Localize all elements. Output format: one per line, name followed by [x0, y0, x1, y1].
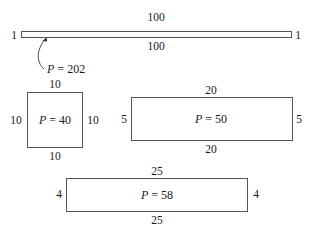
rect-20x5-left-label: 5 — [121, 113, 127, 125]
strip-bottom-label: 100 — [147, 40, 165, 52]
perimeter-value: 202 — [67, 62, 85, 76]
strip-left-label: 1 — [11, 29, 17, 41]
rect-20x5-top-label: 20 — [205, 84, 217, 96]
perimeter-equals: = — [46, 113, 59, 127]
rect-25x4-group: 25 25 4 4 P = 58 — [56, 165, 259, 226]
arrowhead-icon — [43, 38, 48, 42]
perimeter-value: 58 — [161, 188, 173, 202]
strip-perimeter-label: P = 202 — [46, 62, 85, 76]
square-bottom-label: 10 — [49, 150, 61, 162]
perimeter-diagram: 100 100 1 1 P = 202 10 10 10 10 P = 40 2… — [0, 0, 321, 237]
rect-20x5-group: 20 20 5 5 P = 50 — [121, 84, 302, 155]
rect-20x5-bottom-label: 20 — [205, 143, 217, 155]
callout-arrow — [38, 38, 46, 69]
square-left-label: 10 — [10, 114, 22, 126]
perimeter-value: 40 — [59, 113, 71, 127]
perimeter-equals: = — [54, 62, 67, 76]
rect-20x5-perimeter-label: P = 50 — [194, 112, 227, 126]
square-top-label: 10 — [49, 78, 61, 90]
strip-top-label: 100 — [147, 11, 165, 23]
strip-right-label: 1 — [295, 29, 301, 41]
strip-rectangle-group: 100 100 1 1 P = 202 — [11, 11, 301, 76]
rect-20x5-right-label: 5 — [296, 113, 302, 125]
square-right-label: 10 — [87, 114, 99, 126]
strip-rectangle — [22, 32, 292, 38]
rect-25x4-bottom-label: 25 — [151, 214, 163, 226]
rect-25x4-left-label: 4 — [56, 188, 62, 200]
rect-25x4-top-label: 25 — [151, 165, 163, 177]
square-group: 10 10 10 10 P = 40 — [10, 78, 99, 162]
perimeter-value: 50 — [215, 112, 227, 126]
perimeter-equals: = — [202, 112, 215, 126]
perimeter-equals: = — [148, 188, 161, 202]
square-perimeter-label: P = 40 — [38, 113, 71, 127]
rect-25x4-perimeter-label: P = 58 — [140, 188, 173, 202]
rect-25x4-right-label: 4 — [253, 188, 259, 200]
